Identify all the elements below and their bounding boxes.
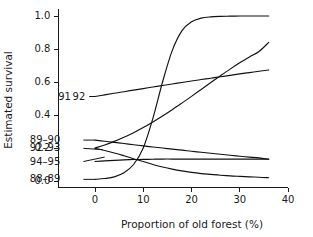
y-tick-label-1.0: 1.0	[34, 10, 50, 21]
series-label-92: 92	[73, 91, 86, 102]
series-label-92-93: 92–93	[30, 142, 60, 153]
tick-marks-group	[54, 16, 288, 192]
y-tick-label-0.8: 0.8	[34, 43, 50, 54]
axes-group	[58, 9, 288, 187]
series-line-92-93	[95, 148, 269, 177]
series-line-89-90	[95, 140, 269, 159]
series-group	[95, 16, 269, 179]
x-tick-label-20: 20	[185, 194, 198, 205]
chart-figure: 010203040 0.00.20.40.60.81.0 88–89919289…	[0, 0, 313, 237]
leader-92-93	[83, 148, 102, 149]
y-tick-label-0.4: 0.4	[34, 109, 50, 120]
x-tick-label-0: 0	[92, 194, 98, 205]
survival-line-chart: 010203040 0.00.20.40.60.81.0 88–89919289…	[0, 0, 313, 237]
series-label-91: 91	[58, 91, 71, 102]
y-axis-title: Estimated survival	[2, 51, 14, 149]
x-axis-title: Proportion of old forest (%)	[121, 218, 263, 230]
series-label-88-89: 88–89	[30, 173, 60, 184]
x-tick-label-10: 10	[137, 194, 150, 205]
series-line-92	[95, 42, 269, 148]
x-tick-label-40: 40	[282, 194, 295, 205]
series-label-94-95: 94–95	[30, 156, 60, 167]
x-tick-labels-group: 010203040	[92, 194, 295, 205]
series-line-94-95	[95, 159, 269, 161]
series-line-91	[95, 70, 269, 97]
x-tick-label-30: 30	[233, 194, 246, 205]
series-labels-group: 88–89919289–9094–9592–93	[30, 91, 86, 185]
leader-lines-group	[83, 97, 104, 180]
y-tick-label-0.6: 0.6	[34, 76, 50, 87]
